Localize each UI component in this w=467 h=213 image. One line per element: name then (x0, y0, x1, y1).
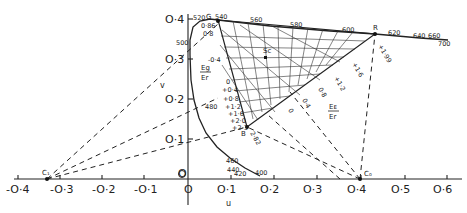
label-c1: C₁ (42, 169, 50, 177)
scale-label: +1·6 (350, 61, 365, 79)
scale-label: 0·8 (203, 30, 213, 38)
wl-label: 460 (226, 157, 238, 165)
eg-er-numerator: Eg (201, 64, 210, 72)
wl-label: 480 (205, 103, 217, 111)
wl-label: 600 (342, 26, 354, 34)
tick-label: O·4 (347, 183, 366, 196)
wavelength-labels: 520 540 560 580 600 620 640 660 700 500 … (176, 13, 450, 178)
dashed-projection-lines (47, 24, 375, 179)
label-c0: C₀ (364, 170, 372, 178)
wl-label: 540 (215, 13, 227, 21)
triangle-grid (220, 21, 365, 120)
tick-label: O (184, 183, 193, 196)
scale-label: 0·4 (300, 97, 312, 110)
u-tick-labels: -O·4 -O·3 -O·2 -O·1 O O·1 O·2 O·3 O·4 O·… (6, 183, 452, 208)
tick-label: O·3 (165, 53, 184, 66)
point-c0 (358, 177, 362, 181)
tick-label: O·1 (217, 183, 236, 196)
scale-label: +0·4 (222, 86, 238, 94)
tick-label: O·6 (433, 183, 452, 196)
wl-label: 640 (413, 32, 425, 40)
tick-label: O·2 (165, 93, 184, 106)
scale-label: 0 (226, 78, 230, 86)
tick-label: O·3 (303, 183, 322, 196)
chromaticity-diagram: -O·4 -O·3 -O·2 -O·1 O O·1 O·2 O·3 O·4 O·… (0, 0, 467, 213)
eb-er-denominator: Er (329, 113, 336, 121)
wl-label: 620 (388, 29, 400, 37)
wl-label: 420 (234, 170, 246, 178)
scale-label: +2·3 (232, 124, 248, 132)
v-axis-label: v (160, 81, 165, 90)
scale-label: +1·2 (332, 75, 347, 93)
scale-label: +1·99 (376, 43, 393, 64)
tick-label: O·4 (165, 13, 184, 26)
scale-label: 0·86 (201, 22, 215, 30)
eg-er-denominator: Er (201, 74, 208, 82)
label-sc: Sc (263, 47, 271, 55)
points (45, 19, 377, 181)
point-r (373, 32, 377, 36)
wl-label: 500 (176, 39, 188, 47)
u-axis-label: u (226, 199, 231, 208)
tick-label: -O·3 (50, 183, 73, 196)
scale-label: -0·4 (208, 56, 221, 64)
eb-er-numerator: Eᴇ (329, 103, 337, 111)
wl-label: 660 (428, 32, 440, 40)
scale-label: 0 (286, 107, 295, 115)
wl-label: 700 (438, 40, 450, 48)
point-c1 (45, 177, 49, 181)
wl-label: 580 (290, 21, 302, 29)
tick-label: O·2 (260, 183, 279, 196)
tick-label: -O·2 (92, 183, 115, 196)
scale-label: 0·8 (316, 86, 328, 99)
wl-label: 400 (255, 169, 267, 177)
wl-label: 520 (193, 14, 205, 22)
wl-label: 560 (250, 16, 262, 24)
scale-label: 2·82 (248, 130, 262, 147)
tick-label: -O·4 (6, 183, 29, 196)
label-g: G (206, 13, 211, 21)
scale-label: +0·8 (223, 95, 239, 103)
point-sc (264, 56, 267, 59)
label-r: R (373, 24, 378, 32)
tick-label: O·5 (391, 183, 410, 196)
tick-label: -O·1 (134, 183, 157, 196)
